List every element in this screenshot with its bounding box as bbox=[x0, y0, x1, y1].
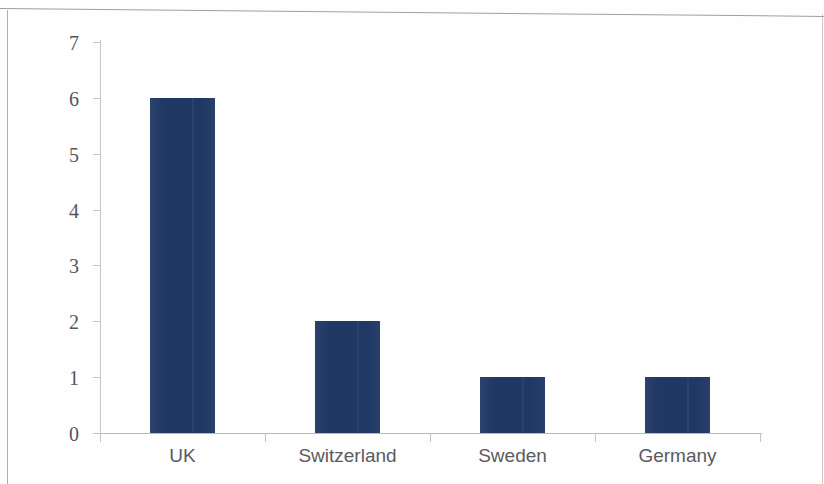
x-axis-line bbox=[100, 433, 762, 434]
bar-switzerland bbox=[315, 321, 380, 433]
x-axis-label-germany: Germany bbox=[638, 445, 716, 467]
chart-screenshot: 01234567 UKSwitzerlandSwedenGermany bbox=[0, 0, 824, 484]
plot-area bbox=[100, 42, 760, 433]
x-axis-tick bbox=[760, 433, 761, 442]
x-axis-tick bbox=[595, 433, 596, 442]
bar-chart: 01234567 UKSwitzerlandSwedenGermany bbox=[0, 0, 824, 484]
x-axis-label-uk: UK bbox=[169, 445, 195, 467]
y-axis-tick-label: 0 bbox=[69, 423, 79, 446]
x-axis-tick bbox=[265, 433, 266, 442]
x-axis-tick bbox=[430, 433, 431, 442]
y-axis-tick-label: 1 bbox=[69, 367, 79, 390]
bar-germany bbox=[645, 377, 710, 433]
bar-uk bbox=[150, 98, 215, 433]
y-axis-tick-label: 7 bbox=[69, 32, 79, 55]
y-axis-tick-label: 6 bbox=[69, 87, 79, 110]
bar-sweden bbox=[480, 377, 545, 433]
x-axis-label-switzerland: Switzerland bbox=[298, 445, 396, 467]
x-axis-tick bbox=[100, 433, 101, 442]
y-axis-tick-label: 4 bbox=[69, 199, 79, 222]
x-axis-label-sweden: Sweden bbox=[478, 445, 547, 467]
y-axis-tick-label: 2 bbox=[69, 311, 79, 334]
y-axis-tick-label: 3 bbox=[69, 255, 79, 278]
y-axis-tick-label: 5 bbox=[69, 143, 79, 166]
